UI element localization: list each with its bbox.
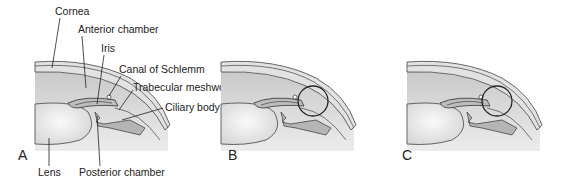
label-anterior-chamber: Anterior chamber	[78, 23, 159, 35]
label-trabecular-meshwork: Trabecular meshwork	[133, 81, 234, 93]
panel-letter-c: C	[402, 147, 412, 163]
label-lens: Lens	[38, 166, 61, 178]
label-ciliary-body: Ciliary body	[165, 101, 221, 113]
panel-b: B	[221, 61, 356, 163]
label-posterior-chamber: Posterior chamber	[79, 166, 165, 178]
label-canal-of-schlemm: Canal of Schlemm	[119, 63, 205, 75]
panel-a: A Cornea Anterior chamber Iris Canal of …	[18, 5, 234, 178]
label-cornea: Cornea	[55, 5, 90, 17]
panel-letter-a: A	[18, 147, 28, 163]
panel-letter-b: B	[228, 147, 237, 163]
panel-c: C	[402, 61, 542, 163]
label-iris: Iris	[101, 42, 115, 54]
